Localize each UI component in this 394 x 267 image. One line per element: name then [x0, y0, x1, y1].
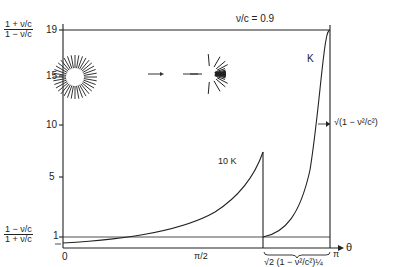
isotropic-starburst-icon — [53, 55, 97, 99]
y-tick-15: 15 — [46, 71, 57, 81]
beamed-starburst-icon — [190, 54, 228, 94]
figure-title: ν/c = 0.9 — [236, 14, 274, 24]
x-axis-label: θ — [346, 242, 352, 253]
x-tick-pi: π — [333, 250, 339, 259]
y-tick-5: 5 — [49, 172, 55, 182]
x-tick-0: 0 — [62, 252, 68, 262]
curve-label-k: K — [307, 54, 314, 64]
y-top-fraction-label: 1 + ν/c 1 − ν/c — [4, 20, 33, 40]
curve-label-10k: 10 K — [218, 157, 237, 166]
width-annotation: √(1 − ν²/c²) — [334, 118, 378, 127]
y-tick-1: 1 — [53, 231, 59, 241]
y-tick-10: 10 — [46, 120, 57, 130]
curve-k — [263, 30, 330, 237]
x-tick-pi-half: π/2 — [194, 252, 208, 261]
brace-annotation: √2 (1 − ν²/c²)¼ — [264, 258, 323, 267]
y-bottom-fraction-label: 1 − ν/c 1 + ν/c — [4, 225, 33, 245]
y-tick-19: 19 — [46, 25, 57, 35]
